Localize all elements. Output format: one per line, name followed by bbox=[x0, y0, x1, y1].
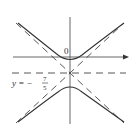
hyperbola-upper-branch bbox=[18, 23, 124, 60]
asymptote-label-prefix: y = − bbox=[11, 78, 33, 88]
hyperbola-diagram: 0 y = − 7 5 bbox=[0, 0, 136, 134]
hyperbola-lower-branch bbox=[18, 87, 124, 122]
x-axis-arrow-icon bbox=[123, 55, 129, 60]
asymptote-label-numerator: 7 bbox=[43, 75, 47, 83]
asymptote-label-denominator: 5 bbox=[43, 84, 47, 92]
origin-label: 0 bbox=[64, 46, 69, 56]
